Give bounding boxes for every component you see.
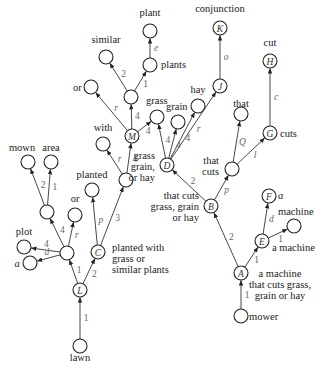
node-plant (143, 24, 157, 38)
label-with: with (94, 122, 113, 133)
label-B-2: grass, grain (151, 201, 200, 212)
label-B-3: or hay (172, 212, 199, 223)
edge-label: r (75, 230, 79, 240)
edge-label: 4 (185, 133, 190, 143)
node-grass (150, 110, 164, 124)
label-area: area (42, 142, 60, 153)
node-n_mown_par (40, 205, 54, 219)
edge-E-F (263, 203, 268, 234)
node-id-B: B (208, 202, 214, 212)
edge-label: o (224, 52, 229, 62)
node-a_left (23, 256, 37, 270)
label-plant: plant (140, 7, 161, 18)
edge-label: r (118, 154, 122, 164)
label-C-1: planted with (112, 242, 165, 253)
edge-label: d (45, 247, 50, 257)
label-machine: machine (278, 206, 314, 217)
edge-A-B (214, 213, 238, 267)
edge-label: 2 (92, 269, 97, 279)
label-A-2: that cuts grass, (249, 279, 311, 290)
node-with (96, 137, 110, 151)
node-id-H: H (266, 57, 275, 67)
node-or_top (84, 80, 98, 94)
node-id-F: F (265, 192, 272, 202)
node-id-D: D (163, 161, 171, 171)
node-n_mm (124, 90, 138, 104)
label-that: that (233, 98, 249, 109)
label-A-3: grain or hay (255, 290, 306, 301)
node-id-G: G (267, 129, 274, 139)
node-that_cuts (225, 162, 239, 176)
label-that-cuts-1: that (203, 155, 219, 166)
label-hay: hay (190, 84, 206, 95)
edge-label: 1 (254, 255, 259, 265)
node-id-M: M (127, 132, 137, 142)
label-cuts: cuts (280, 128, 297, 139)
label-planted: planted (77, 169, 109, 180)
edge-label: 4 (176, 140, 181, 150)
node-lawn (73, 339, 87, 353)
edge-label: 1 (245, 290, 250, 300)
node-mown (21, 155, 35, 169)
edge-label: l (254, 150, 257, 160)
semantic-tree-diagram: 1124d4r21p3r4r4421e444ro2pQlc21d11 LCMDJ… (0, 0, 328, 369)
edge-label: 4 (165, 135, 170, 145)
edge-label: 4 (146, 126, 151, 136)
edge-label: 1 (77, 265, 82, 275)
label-C-2: grass or (112, 253, 145, 264)
nodes-layer: LCMDJKBGHAEF (17, 21, 301, 353)
label-mower: mower (249, 311, 279, 322)
edge-label: p (98, 215, 104, 225)
edge-label: 1 (53, 182, 58, 192)
edge-label: p (223, 185, 229, 195)
node-area (44, 155, 58, 169)
edge-label: 3 (115, 213, 120, 223)
edge-label: 1 (84, 313, 89, 323)
label-grass: grass (146, 95, 168, 106)
label-mown: mown (9, 142, 36, 153)
label-similar: similar (91, 34, 121, 45)
label-cut: cut (264, 37, 277, 48)
edge-n_mown_par-area (48, 169, 51, 205)
edge-label: 4 (60, 225, 65, 235)
node-hay (191, 99, 205, 113)
edge-label: 2 (191, 176, 196, 186)
edge-n_left-or_left (68, 222, 73, 246)
edge-C-planted (93, 197, 98, 245)
label-plot: plot (16, 226, 32, 237)
label-B-1: that cuts (164, 190, 199, 201)
node-id-A: A (237, 269, 244, 279)
label-that-cuts-2: cuts (202, 166, 219, 177)
label-grain: grain (166, 101, 188, 112)
label-C-3: similar plants (112, 264, 169, 275)
label-plants: plants (161, 59, 186, 70)
node-mower (234, 309, 248, 323)
node-id-K: K (216, 24, 224, 34)
node-similar (99, 50, 113, 64)
edge-label: 1 (143, 79, 148, 89)
label-F-a: a (278, 190, 283, 201)
node-plot (17, 240, 31, 254)
node-plants (143, 58, 157, 72)
node-that (234, 107, 248, 121)
edge-label: r (114, 103, 118, 113)
label-lawn: lawn (70, 352, 91, 363)
label-D-3: or hay (128, 172, 155, 183)
label-a-left: a (14, 258, 19, 269)
edge-label: 2 (121, 69, 126, 79)
edge-label: Q (239, 137, 246, 147)
node-id-E: E (258, 237, 265, 247)
edge-label: c (274, 92, 279, 102)
edge-label: 2 (229, 232, 234, 242)
label-A-1: a machine (259, 268, 302, 279)
label-D-1: grass (133, 150, 155, 161)
node-machine (287, 219, 301, 233)
edge-label: 2 (41, 180, 46, 190)
node-n_left (60, 246, 74, 260)
edge-label: d (269, 214, 274, 224)
node-id-C: C (95, 248, 102, 258)
label-E: a machine (272, 242, 315, 253)
label-or-top: or (73, 82, 82, 93)
edge-M-n_mm (131, 104, 132, 129)
edge-label: e (154, 43, 158, 53)
